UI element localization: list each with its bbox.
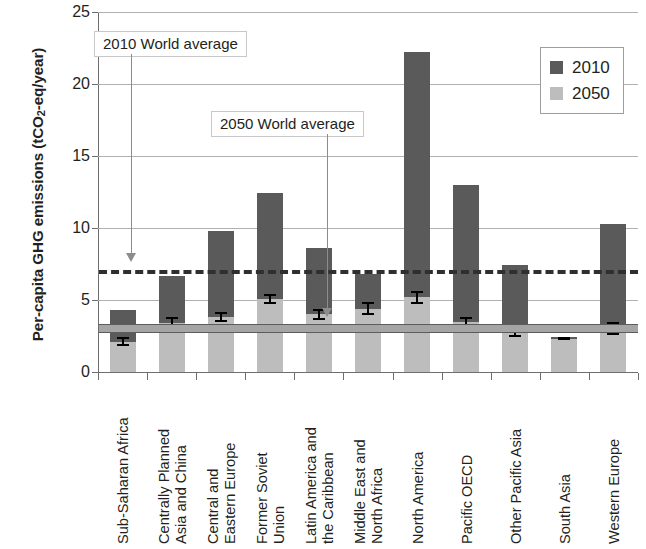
legend-swatch-2050 (550, 87, 563, 100)
error-bar-2050 (110, 337, 136, 346)
annotation-2010-leader-line (131, 54, 132, 254)
x-axis-line (98, 372, 638, 373)
error-bar-cap-bottom (362, 313, 374, 315)
x-axis-label-north-america: North America (410, 386, 427, 544)
bar-2050 (404, 297, 430, 372)
error-bar-2050 (404, 291, 430, 304)
error-bar-cap-bottom (117, 344, 129, 346)
x-axis-label-centrally-planned-asia-and-china: Centrally Planned Asia and China (156, 386, 190, 544)
bar-2050 (502, 333, 528, 372)
y-tick-label-25: 25 (50, 4, 90, 20)
x-tick-mark (638, 373, 639, 380)
legend-swatch-2010 (550, 61, 563, 74)
error-bar-cap-bottom (607, 333, 619, 335)
x-tick-mark (98, 373, 99, 380)
reference-line-2050-world-average (99, 324, 638, 333)
bar-2050 (257, 299, 283, 372)
bar-group (306, 12, 332, 372)
error-bar-cap-top (460, 317, 472, 319)
bar-group (355, 12, 381, 372)
error-bar-cap-bottom (411, 302, 423, 304)
y-tick-label-0: 0 (50, 364, 90, 380)
y-tick-label-10: 10 (50, 220, 90, 236)
bar-2050 (551, 339, 577, 372)
annotation-2010-world-average: 2010 World average (94, 31, 247, 57)
x-axis-label-former-soviet-union: Former Soviet Union (254, 386, 288, 544)
annotation-2010-arrowhead (126, 253, 136, 262)
x-axis-label-latin-america-and-the-caribbean: Latin America and the Caribbean (303, 386, 337, 544)
x-tick-mark (294, 373, 295, 380)
x-tick-mark (540, 373, 541, 380)
legend-label-2010: 2010 (572, 59, 610, 76)
x-axis-label-western-europe: Western Europe (606, 386, 623, 544)
x-tick-mark (147, 373, 148, 380)
bar-group (208, 12, 234, 372)
x-axis-label-sub-saharan-africa: Sub-Saharan Africa (115, 386, 132, 544)
error-bar-cap-bottom (509, 335, 521, 337)
x-tick-mark (589, 373, 590, 380)
y-axis-title-tail: -eq/year) (29, 48, 46, 110)
x-tick-mark (442, 373, 443, 380)
bar-group (404, 12, 430, 372)
x-axis-label-south-asia: South Asia (557, 386, 574, 544)
y-axis-title-main: Per-capita GHG emissions (tCO (29, 116, 46, 341)
bar-2050 (110, 342, 136, 372)
error-bar-2050 (551, 337, 577, 340)
x-axis-label-middle-east-and-north-africa: Middle East and North Africa (352, 386, 386, 544)
y-axis-title-subscript: 2 (35, 110, 47, 116)
bar-group (502, 12, 528, 372)
error-bar-cap-bottom (313, 318, 325, 320)
error-bar-2050 (208, 312, 234, 322)
legend-item-2010[interactable]: 2010 (550, 54, 610, 80)
x-tick-mark (343, 373, 344, 380)
error-bar-2050 (257, 294, 283, 304)
bar-2050 (355, 309, 381, 372)
error-bar-cap-top (362, 302, 374, 304)
x-axis-label-pacific-oecd: Pacific OECD (459, 386, 476, 544)
reference-line-2010-world-average (99, 270, 638, 274)
annotation-2050-arrowhead (322, 308, 332, 317)
error-bar-cap-bottom (215, 320, 227, 322)
bar-2050 (306, 314, 332, 372)
y-axis-title: Per-capita GHG emissions (tCO2-eq/year) (29, 5, 46, 385)
bar-2050 (600, 329, 626, 372)
error-bar-cap-top (215, 312, 227, 314)
x-tick-mark (491, 373, 492, 380)
ghg-emissions-bar-chart: Per-capita GHG emissions (tCO2-eq/year) … (0, 0, 646, 549)
error-bar-cap-bottom (558, 338, 570, 340)
error-bar-cap-top (166, 317, 178, 319)
x-axis-label-central-and-eastern-europe: Central and Eastern Europe (205, 386, 239, 544)
bar-group (453, 12, 479, 372)
y-tick-label-5: 5 (50, 292, 90, 308)
annotation-2050-label: 2050 World average (220, 115, 355, 132)
legend: 20102050 (540, 47, 624, 114)
error-bar-cap-bottom (264, 302, 276, 304)
error-bar-2050 (355, 302, 381, 315)
bar-group (257, 12, 283, 372)
x-tick-mark (196, 373, 197, 380)
annotation-2010-label: 2010 World average (103, 35, 238, 52)
annotation-2050-leader-line (327, 134, 328, 309)
legend-label-2050: 2050 (572, 85, 610, 102)
x-tick-mark (245, 373, 246, 380)
error-bar-cap-top (117, 337, 129, 339)
x-tick-mark (393, 373, 394, 380)
bar-group (159, 12, 185, 372)
legend-item-2050[interactable]: 2050 (550, 80, 610, 106)
error-bar-cap-top (411, 291, 423, 293)
error-bar-cap-top (264, 294, 276, 296)
annotation-2050-world-average: 2050 World average (211, 111, 364, 137)
y-tick-label-20: 20 (50, 76, 90, 92)
x-axis-label-other-pacific-asia: Other Pacific Asia (508, 386, 525, 544)
y-tick-label-15: 15 (50, 148, 90, 164)
